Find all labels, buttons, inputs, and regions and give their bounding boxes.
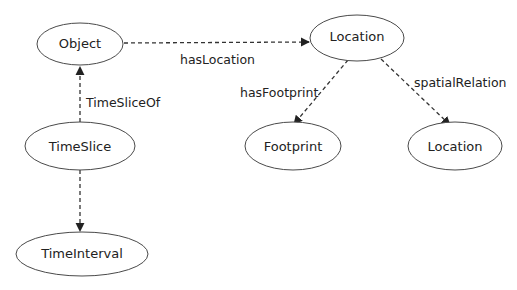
edge-time-slice-of: TimeSliceOf [80,67,161,122]
node-location-bottom: Location [408,122,502,170]
node-timeslice: TimeSlice [25,122,135,170]
node-location-top: Location [310,15,404,61]
node-label: Location [330,29,385,44]
node-label: Footprint [264,139,323,154]
node-label: TimeSlice [48,139,111,154]
dashed-arrow [381,59,450,125]
edge-spatial-relation: spatialRelation [381,59,507,125]
edge-label-time-slice-of: TimeSliceOf [85,95,161,110]
edge-label-has-footprint: hasFootprint [240,85,319,100]
node-footprint: Footprint [245,122,341,170]
edge-label-spatial-relation: spatialRelation [414,75,507,90]
node-label: Location [428,139,483,154]
node-label: TimeInterval [40,246,123,261]
edge-has-location: hasLocation [124,42,309,67]
dashed-arrow [124,42,309,43]
edge-label-has-location: hasLocation [180,52,255,67]
node-timeinterval: TimeInterval [16,232,148,276]
node-label: Object [59,36,101,51]
ontology-diagram: hasLocation TimeSliceOf hasFootprint spa… [0,0,517,290]
node-object: Object [37,23,123,65]
edge-has-footprint: hasFootprint [240,60,348,124]
